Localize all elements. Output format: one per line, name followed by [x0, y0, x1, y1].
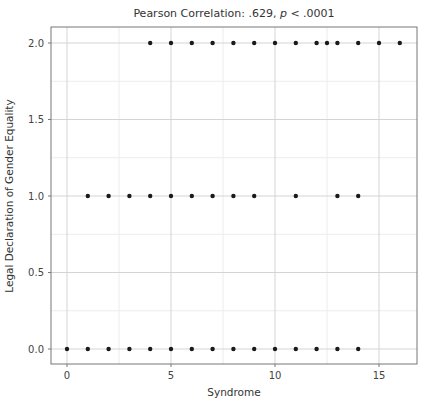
data-point — [169, 347, 173, 351]
x-axis-ticks: 051015 — [64, 364, 386, 381]
data-point — [65, 347, 69, 351]
data-point — [335, 41, 339, 45]
data-point — [273, 41, 277, 45]
data-point — [314, 347, 318, 351]
data-point — [190, 347, 194, 351]
data-point — [106, 347, 110, 351]
data-point — [169, 194, 173, 198]
data-point — [314, 41, 318, 45]
data-point — [169, 41, 173, 45]
y-tick-label: 0.0 — [28, 344, 44, 355]
data-point — [335, 194, 339, 198]
data-point — [86, 194, 90, 198]
chart-title: Pearson Correlation: .629, p < .0001 — [133, 7, 334, 20]
data-point — [127, 347, 131, 351]
data-point — [335, 347, 339, 351]
data-point — [252, 41, 256, 45]
data-point — [210, 194, 214, 198]
data-point — [252, 347, 256, 351]
data-point — [273, 347, 277, 351]
data-point — [148, 347, 152, 351]
y-tick-label: 2.0 — [28, 38, 44, 49]
x-tick-label: 15 — [373, 370, 386, 381]
data-point — [325, 41, 329, 45]
data-point — [377, 41, 381, 45]
data-point — [294, 347, 298, 351]
data-point — [210, 347, 214, 351]
data-point — [252, 194, 256, 198]
y-axis-label: Legal Declaration of Gender Equality — [3, 99, 15, 292]
data-point — [86, 347, 90, 351]
x-tick-label: 5 — [168, 370, 174, 381]
data-point — [127, 194, 131, 198]
data-point — [231, 41, 235, 45]
data-point — [190, 194, 194, 198]
data-point — [356, 347, 360, 351]
data-point — [398, 41, 402, 45]
data-point — [356, 41, 360, 45]
scatter-chart: Pearson Correlation: .629, p < .0001 051… — [0, 0, 431, 411]
x-axis-label: Syndrome — [207, 386, 260, 398]
data-point — [148, 41, 152, 45]
y-tick-label: 1.5 — [28, 114, 44, 125]
x-tick-label: 10 — [269, 370, 282, 381]
data-point — [148, 194, 152, 198]
data-point — [231, 347, 235, 351]
data-point — [106, 194, 110, 198]
data-point — [231, 194, 235, 198]
y-tick-label: 1.0 — [28, 191, 44, 202]
data-point — [210, 41, 214, 45]
data-point — [356, 194, 360, 198]
data-point — [294, 194, 298, 198]
y-axis-ticks: 0.00.51.01.52.0 — [28, 38, 51, 355]
data-point — [190, 41, 194, 45]
x-tick-label: 0 — [64, 370, 70, 381]
y-tick-label: 0.5 — [28, 267, 44, 278]
data-point — [294, 41, 298, 45]
